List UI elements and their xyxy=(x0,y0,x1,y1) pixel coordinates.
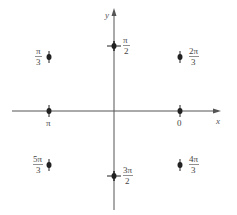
point-5pi-over-3: 5π 3 xyxy=(33,154,52,175)
svg-text:π: π xyxy=(46,118,51,128)
svg-text:3: 3 xyxy=(36,57,41,67)
svg-text:2π: 2π xyxy=(189,46,199,56)
point-4pi-over-3: 4π 3 xyxy=(178,154,200,175)
svg-text:0: 0 xyxy=(177,118,182,128)
point-marker-icon xyxy=(47,54,52,60)
svg-text:2: 2 xyxy=(125,176,130,186)
x-axis-arrow-icon xyxy=(213,109,221,114)
point-marker-icon xyxy=(47,162,52,168)
y-axis-label: y xyxy=(104,10,109,20)
svg-text:2: 2 xyxy=(124,46,129,56)
point-pi-over-2: π 2 xyxy=(107,35,130,56)
svg-text:5π: 5π xyxy=(33,154,43,164)
point-marker-icon xyxy=(112,43,117,49)
point-pi-over-3: π 3 xyxy=(35,46,52,67)
y-axis-arrow-icon xyxy=(112,8,117,16)
svg-text:3: 3 xyxy=(191,57,196,67)
svg-text:3π: 3π xyxy=(123,165,133,175)
point-marker-icon xyxy=(178,162,183,168)
coordinate-diagram: x y π 2 π 3 2π 3 xyxy=(0,0,237,215)
svg-text:3: 3 xyxy=(191,165,196,175)
svg-text:3: 3 xyxy=(36,165,41,175)
point-marker-icon xyxy=(178,54,183,60)
point-zero: 0 xyxy=(177,105,183,128)
x-axis-label: x xyxy=(215,116,220,126)
point-3pi-over-2: 3π 2 xyxy=(107,165,133,186)
point-pi: π xyxy=(46,105,52,128)
point-marker-icon xyxy=(178,108,183,114)
svg-text:π: π xyxy=(123,35,128,45)
point-2pi-over-3: 2π 3 xyxy=(178,46,200,67)
point-marker-icon xyxy=(112,173,117,179)
point-marker-icon xyxy=(47,108,52,114)
axes: x y xyxy=(12,8,221,210)
svg-text:4π: 4π xyxy=(189,154,199,164)
svg-text:π: π xyxy=(36,46,41,56)
